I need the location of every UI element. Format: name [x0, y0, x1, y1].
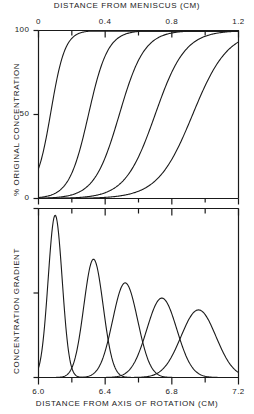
- upper-y-tick-label: 0: [25, 193, 30, 202]
- lower-peak-3: [39, 283, 239, 378]
- upper-x-tick-label: 1.2: [232, 17, 245, 26]
- plot-canvas: [0, 0, 254, 414]
- upper-x-tick-label: 0.8: [166, 17, 179, 26]
- upper-curve-4: [39, 31, 239, 198]
- upper-curve-1: [39, 31, 239, 168]
- upper-y-tick-label: 100: [15, 25, 30, 34]
- lower-peak-2: [39, 259, 239, 377]
- upper-curve-3: [39, 31, 239, 198]
- lower-x-tick-label: 6.4: [99, 387, 112, 396]
- upper-y-tick-label: 50: [20, 109, 30, 118]
- upper-curve-2: [39, 31, 239, 197]
- lower-x-tick-label: 6.8: [166, 387, 179, 396]
- upper-x-tick-label: 0.4: [99, 17, 112, 26]
- lower-peak-4: [39, 298, 239, 377]
- lower-peak-5: [39, 310, 239, 378]
- sedimentation-figure: DISTANCE FROM MENISCUS (CM) % ORIGINAL C…: [0, 0, 254, 414]
- upper-x-tick-label: 0: [36, 17, 41, 26]
- lower-x-tick-label: 7.2: [232, 387, 245, 396]
- upper-curve-5: [39, 42, 239, 199]
- lower-x-tick-label: 6.0: [32, 387, 45, 396]
